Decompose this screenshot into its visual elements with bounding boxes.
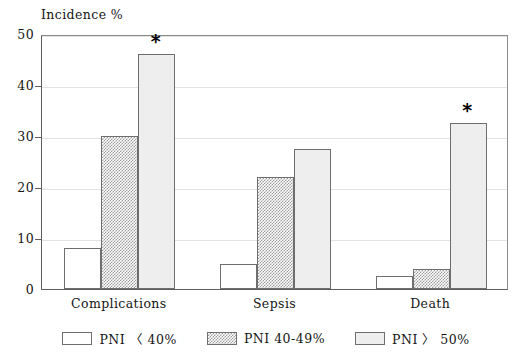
bar bbox=[220, 264, 257, 290]
y-axis-label: 30 bbox=[4, 129, 34, 144]
gridline bbox=[42, 36, 507, 37]
y-axis-label: 40 bbox=[4, 78, 34, 93]
y-axis-title: Incidence % bbox=[41, 7, 123, 22]
significance-asterisk: * bbox=[462, 101, 472, 120]
legend-swatch bbox=[207, 332, 237, 345]
legend-label: PNI 〉 50% bbox=[392, 329, 470, 348]
chart-legend: PNI 〈 40%PNI 40-49%PNI 〉 50% bbox=[0, 329, 532, 348]
legend-item[interactable]: PNI 40-49% bbox=[207, 331, 325, 346]
bar bbox=[376, 276, 413, 289]
incidence-bar-chart: Incidence % 01020304050 ComplicationsSep… bbox=[0, 0, 532, 363]
y-axis-label: 0 bbox=[4, 282, 34, 297]
legend-item[interactable]: PNI 〈 40% bbox=[62, 329, 177, 348]
bar bbox=[138, 54, 175, 289]
legend-swatch bbox=[355, 332, 385, 345]
y-axis-label: 10 bbox=[4, 231, 34, 246]
significance-asterisk: * bbox=[151, 32, 161, 51]
bar bbox=[413, 269, 450, 289]
gridline bbox=[42, 87, 507, 88]
legend-item[interactable]: PNI 〉 50% bbox=[355, 329, 470, 348]
bar bbox=[450, 123, 487, 289]
bar bbox=[101, 136, 138, 289]
plot-area bbox=[41, 35, 508, 290]
category-label: Death bbox=[410, 296, 450, 311]
bar bbox=[64, 248, 101, 289]
bar bbox=[257, 177, 294, 289]
legend-swatch bbox=[62, 332, 92, 345]
legend-label: PNI 40-49% bbox=[244, 331, 325, 346]
legend-label: PNI 〈 40% bbox=[99, 329, 177, 348]
y-axis-label: 50 bbox=[4, 27, 34, 42]
category-label: Complications bbox=[71, 296, 167, 311]
y-axis-label: 20 bbox=[4, 180, 34, 195]
bar bbox=[294, 149, 331, 289]
category-label: Sepsis bbox=[253, 296, 296, 311]
